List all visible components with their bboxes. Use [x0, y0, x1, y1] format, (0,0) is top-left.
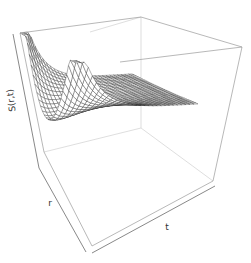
- r-axis-label: r: [48, 198, 52, 208]
- z-axis-label: S(r,t): [5, 88, 18, 112]
- t-axis-label: t: [165, 222, 169, 232]
- surface-mesh: [20, 32, 198, 120]
- box-front-edges: [20, 17, 242, 246]
- surface-plot: S(r,t) r t: [0, 0, 251, 263]
